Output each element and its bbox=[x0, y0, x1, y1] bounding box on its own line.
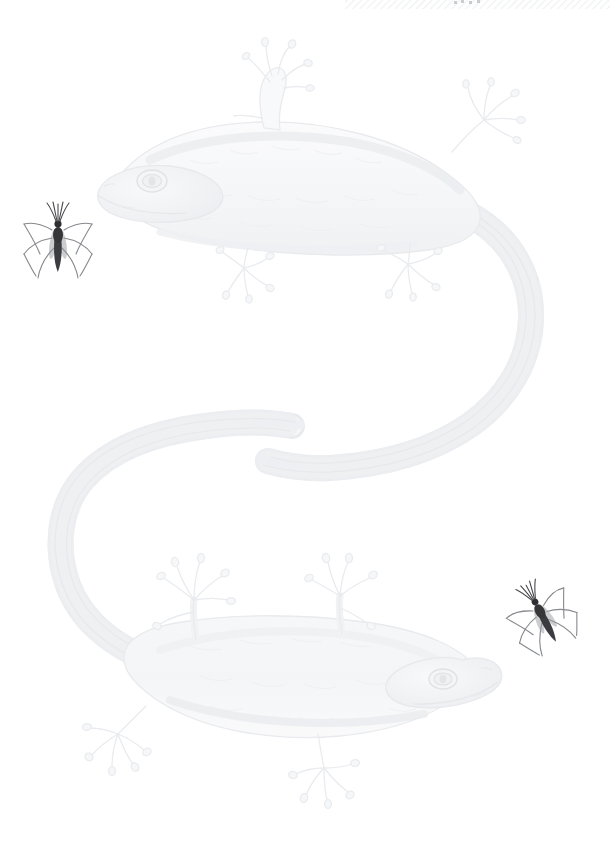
hatch-band bbox=[345, 0, 610, 9]
plate-canvas bbox=[0, 0, 614, 853]
gecko-upper-eye bbox=[137, 170, 167, 192]
illustration-plate: Very pale pencil drawing of two geckos a… bbox=[0, 0, 614, 853]
gecko-lower-eye bbox=[429, 669, 457, 689]
